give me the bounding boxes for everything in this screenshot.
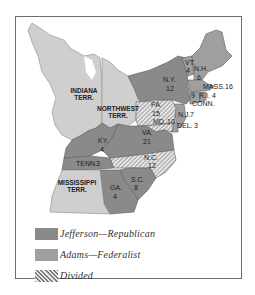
label-northwest: NORTHWEST	[97, 105, 139, 112]
votes-sc: 8	[134, 184, 138, 191]
swatch-divided	[35, 270, 58, 282]
legend-label-divided: Divided	[60, 270, 93, 281]
label-northwest-terr: TERR.	[108, 112, 128, 119]
label-conn: CONN.	[192, 100, 215, 107]
votes-nc: 12	[148, 162, 156, 169]
label-tenn: TENN.	[76, 160, 97, 167]
legend-label-jefferson: Jefferson—Republican	[60, 228, 155, 239]
label-indiana: INDIANA	[70, 87, 97, 94]
label-nc: N.C.	[144, 154, 158, 161]
votes-md: 10	[167, 118, 175, 125]
votes-ny: 12	[166, 85, 174, 92]
label-va: VA.	[142, 129, 153, 136]
state-nh	[192, 30, 232, 80]
votes-vt: 4	[186, 67, 190, 74]
votes-mass: 16	[225, 83, 233, 90]
legend-label-adams: Adams—Federalist	[60, 249, 140, 260]
label-sc: S.C.	[131, 176, 145, 183]
label-mass: MASS.	[203, 83, 225, 90]
label-indiana-terr: TERR.	[74, 94, 94, 101]
region-indiana-territory	[28, 23, 102, 140]
votes-del: 3	[194, 122, 198, 129]
label-ri: R.I.	[199, 92, 210, 99]
label-nj: N.J.	[178, 111, 191, 118]
swatch-adams	[35, 249, 58, 261]
votes-ga: 4	[113, 193, 117, 200]
legend-item-jefferson: Jefferson—Republican	[35, 223, 155, 244]
label-pa: PA.	[151, 101, 162, 108]
state-ny	[128, 56, 190, 104]
swatch-jefferson	[35, 228, 58, 240]
legend-item-adams: Adams—Federalist	[35, 244, 155, 265]
votes-ri: 4	[212, 92, 216, 99]
label-ny: N.Y.	[163, 76, 176, 83]
votes-ky: 4	[100, 146, 104, 153]
label-ga: GA.	[110, 184, 122, 191]
label-nh: N.H.	[194, 65, 208, 72]
label-mississippi: MISSISSIPPI	[58, 179, 97, 186]
legend-item-divided: Divided	[35, 265, 155, 286]
votes-nj: 7	[190, 111, 194, 118]
label-del: DEL.	[177, 122, 193, 129]
votes-nh: 6	[197, 74, 201, 81]
votes-conn: 9	[191, 92, 195, 99]
votes-tenn: 3	[96, 160, 100, 167]
label-ky: KY.	[98, 137, 108, 144]
legend: Jefferson—Republican Adams—Federalist Di…	[35, 223, 155, 286]
label-md: MD.	[153, 118, 166, 125]
votes-va: 21	[143, 138, 151, 145]
votes-pa: 15	[152, 110, 160, 117]
label-mississippi-terr: TERR.	[67, 186, 87, 193]
